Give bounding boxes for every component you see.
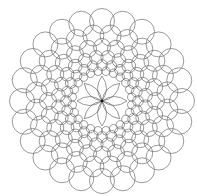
- ring-5-circle: [74, 79, 82, 87]
- ring-2-circle: [132, 54, 149, 71]
- ring-2-circle: [132, 131, 149, 148]
- ring-5-circle: [122, 115, 130, 123]
- ring-5-circle: [109, 125, 117, 133]
- ring-0-circle: [33, 145, 58, 170]
- ring-2-circle: [47, 120, 64, 137]
- ring-2-circle: [67, 46, 84, 63]
- ring-5-circle: [86, 69, 94, 77]
- ring-2-circle: [140, 120, 157, 137]
- mandala-drawing: [0, 0, 197, 196]
- center-flower: [77, 76, 127, 126]
- center-dot: [101, 100, 104, 103]
- ring-2-circle: [55, 131, 72, 148]
- ring-2-circle: [121, 139, 138, 156]
- ring-0-circle: [33, 32, 58, 57]
- ring-0-circle: [146, 145, 171, 170]
- petal: [77, 97, 102, 106]
- ring-2-circle: [121, 46, 138, 63]
- ring-2-circle: [47, 66, 64, 83]
- ring-5-circle: [80, 121, 88, 129]
- ring-5-circle: [116, 73, 124, 81]
- ring-0-circle: [146, 32, 171, 57]
- petal: [102, 97, 127, 106]
- ring-2-circle: [67, 139, 84, 156]
- ring-5-circle: [126, 85, 134, 93]
- ring-2-circle: [140, 66, 157, 83]
- petal: [98, 76, 107, 101]
- ring-2-circle: [55, 54, 72, 71]
- petal: [98, 101, 107, 126]
- ring-5-circle: [70, 108, 78, 116]
